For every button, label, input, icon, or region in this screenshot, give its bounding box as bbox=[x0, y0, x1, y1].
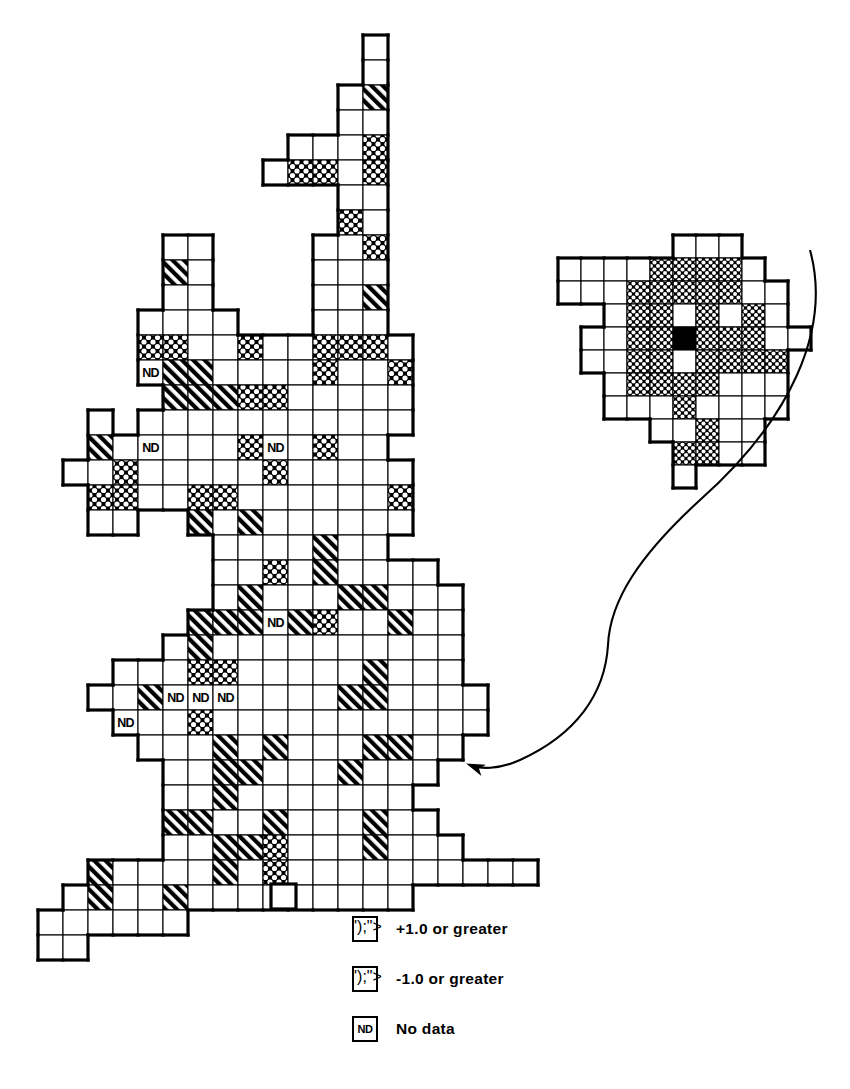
grid-cell bbox=[413, 685, 438, 710]
grid-cell bbox=[338, 360, 363, 385]
inset-map-grid bbox=[558, 235, 811, 488]
grid-cell bbox=[213, 310, 238, 335]
grid-cell bbox=[88, 410, 113, 435]
grid-cell bbox=[288, 160, 313, 185]
grid-cell bbox=[765, 304, 788, 327]
grid-cell bbox=[696, 281, 719, 304]
grid-cell bbox=[188, 635, 213, 660]
grid-cell bbox=[138, 885, 163, 910]
legend-label-nodata: No data bbox=[396, 1020, 455, 1038]
grid-cell bbox=[338, 385, 363, 410]
grid-cell bbox=[88, 485, 113, 510]
grid-cell bbox=[263, 685, 288, 710]
grid-cell bbox=[313, 735, 338, 760]
grid-cell bbox=[581, 281, 604, 304]
grid-cell bbox=[313, 760, 338, 785]
grid-cell bbox=[338, 460, 363, 485]
grid-cell bbox=[163, 785, 188, 810]
grid-cell bbox=[650, 281, 673, 304]
grid-cell bbox=[338, 760, 363, 785]
grid-cell bbox=[288, 685, 313, 710]
grid-cell bbox=[673, 281, 696, 304]
grid-cell bbox=[238, 460, 263, 485]
legend-label-plus: +1.0 or greater bbox=[396, 920, 508, 938]
grid-cell bbox=[338, 560, 363, 585]
grid-cell bbox=[263, 535, 288, 560]
grid-cell bbox=[604, 281, 627, 304]
grid-cell bbox=[263, 635, 288, 660]
no-data-cell-label: ND bbox=[267, 441, 284, 455]
grid-cell bbox=[238, 585, 263, 610]
grid-cell bbox=[463, 685, 488, 710]
map-legend: ');"> +1.0 or greater ');"> -1.0 or grea… bbox=[352, 912, 508, 1062]
grid-cell bbox=[363, 260, 388, 285]
grid-cell bbox=[38, 910, 63, 935]
grid-cell bbox=[338, 335, 363, 360]
grid-cell bbox=[213, 785, 238, 810]
grid-cell bbox=[650, 304, 673, 327]
grid-cell bbox=[288, 785, 313, 810]
grid-cell bbox=[163, 335, 188, 360]
grid-cell bbox=[604, 304, 627, 327]
grid-cell bbox=[363, 310, 388, 335]
grid-cell bbox=[413, 860, 438, 885]
grid-cell bbox=[163, 660, 188, 685]
grid-cell bbox=[288, 460, 313, 485]
grid-cell bbox=[413, 560, 438, 585]
grid-cell bbox=[363, 510, 388, 535]
grid-cell bbox=[238, 360, 263, 385]
grid-cell bbox=[363, 110, 388, 135]
grid-cell bbox=[188, 260, 213, 285]
grid-cell bbox=[213, 635, 238, 660]
grid-cell bbox=[113, 460, 138, 485]
grid-cell bbox=[338, 210, 363, 235]
grid-cell bbox=[238, 335, 263, 360]
grid-cell bbox=[313, 435, 338, 460]
grid-cell bbox=[673, 350, 696, 373]
grid-cell bbox=[163, 710, 188, 735]
grid-cell bbox=[188, 660, 213, 685]
grid-cell bbox=[263, 660, 288, 685]
grid-cell bbox=[673, 235, 696, 258]
grid-cell bbox=[363, 810, 388, 835]
grid-cell bbox=[263, 785, 288, 810]
grid-cell bbox=[363, 885, 388, 910]
grid-cell bbox=[213, 485, 238, 510]
grid-cell bbox=[673, 373, 696, 396]
grid-cell bbox=[288, 635, 313, 660]
grid-cell bbox=[113, 510, 138, 535]
grid-cell bbox=[288, 435, 313, 460]
grid-cell bbox=[388, 485, 413, 510]
grid-cell bbox=[313, 685, 338, 710]
grid-cell bbox=[338, 660, 363, 685]
grid-cell bbox=[488, 860, 513, 885]
grid-cell bbox=[163, 410, 188, 435]
grid-cell bbox=[650, 419, 673, 442]
grid-cell bbox=[63, 910, 88, 935]
grid-cell bbox=[719, 258, 742, 281]
grid-cell bbox=[188, 610, 213, 635]
grid-cell bbox=[138, 310, 163, 335]
grid-cell bbox=[742, 350, 765, 373]
grid-cell bbox=[288, 760, 313, 785]
grid-cell bbox=[163, 835, 188, 860]
grid-cell bbox=[765, 281, 788, 304]
grid-cell bbox=[581, 327, 604, 350]
grid-cell bbox=[213, 760, 238, 785]
grid-cell bbox=[363, 485, 388, 510]
grid-cell bbox=[363, 735, 388, 760]
grid-cell bbox=[138, 685, 163, 710]
grid-cell bbox=[673, 327, 696, 350]
grid-cell bbox=[313, 310, 338, 335]
grid-cell bbox=[338, 435, 363, 460]
grid-cell bbox=[188, 435, 213, 460]
grid-cell bbox=[313, 360, 338, 385]
grid-cell bbox=[363, 210, 388, 235]
grid-cell bbox=[363, 185, 388, 210]
grid-cell bbox=[88, 685, 113, 710]
grid-cell bbox=[188, 335, 213, 360]
legend-item-minus: ');"> -1.0 or greater bbox=[352, 962, 508, 996]
legend-label-minus: -1.0 or greater bbox=[396, 970, 504, 988]
grid-cell bbox=[238, 435, 263, 460]
grid-cell bbox=[650, 373, 673, 396]
